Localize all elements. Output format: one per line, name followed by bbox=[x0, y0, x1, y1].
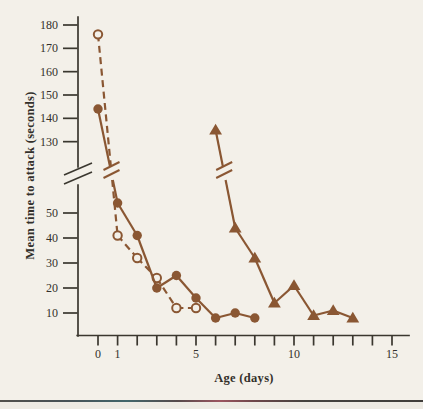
data-point-open-circle bbox=[192, 304, 200, 312]
page-margin-strip bbox=[0, 402, 423, 409]
break-slash bbox=[216, 170, 232, 178]
x-tick-label: 5 bbox=[193, 347, 199, 361]
series-group-filled-triangles bbox=[209, 124, 359, 323]
data-point-filled-circle bbox=[231, 308, 240, 317]
break-slash bbox=[216, 162, 232, 170]
series-group-open-circles bbox=[94, 30, 200, 312]
data-point-filled-triangle bbox=[327, 304, 340, 315]
data-point-filled-triangle bbox=[248, 252, 261, 263]
figure-page: 10203040501301401501601701800151015 Mean… bbox=[0, 0, 423, 409]
data-point-filled-circle bbox=[191, 293, 200, 302]
data-point-filled-triangle bbox=[229, 222, 242, 233]
data-point-open-circle bbox=[172, 304, 180, 312]
data-point-filled-triangle bbox=[209, 124, 222, 135]
data-point-filled-circle bbox=[172, 271, 181, 280]
y-tick-label: 150 bbox=[40, 88, 58, 102]
data-point-filled-circle bbox=[250, 313, 259, 322]
y-tick-label: 140 bbox=[40, 111, 58, 125]
series-group-filled-circles bbox=[93, 104, 259, 322]
y-tick-label: 40 bbox=[46, 231, 58, 245]
y-tick-label: 180 bbox=[40, 18, 58, 32]
break-slash bbox=[104, 170, 120, 178]
y-tick-label: 20 bbox=[46, 281, 58, 295]
x-tick-label: 15 bbox=[386, 347, 398, 361]
y-tick-label: 30 bbox=[46, 256, 58, 270]
y-tick-label: 130 bbox=[40, 135, 58, 149]
data-point-filled-circle bbox=[211, 313, 220, 322]
series-line bbox=[216, 130, 223, 166]
axes bbox=[77, 17, 409, 336]
series-line bbox=[118, 203, 138, 236]
data-point-filled-circle bbox=[93, 104, 102, 113]
x-axis-title: Age (days) bbox=[78, 371, 410, 386]
y-tick-label: 10 bbox=[46, 306, 58, 320]
x-tick-label: 1 bbox=[115, 347, 121, 361]
data-point-open-circle bbox=[133, 254, 141, 262]
y-axis-title: Mean time to attack (seconds) bbox=[23, 16, 40, 336]
series-line bbox=[226, 180, 236, 228]
data-point-filled-circle bbox=[113, 198, 122, 207]
data-point-filled-circle bbox=[133, 231, 142, 240]
x-tick-label: 0 bbox=[95, 347, 101, 361]
y-tick-label: 50 bbox=[46, 206, 58, 220]
attack-latency-line-chart: 10203040501301401501601701800151015 bbox=[0, 0, 423, 409]
data-point-filled-circle bbox=[152, 283, 161, 292]
x-tick-label: 10 bbox=[288, 347, 300, 361]
y-tick-label: 170 bbox=[40, 41, 58, 55]
y-tick-label: 160 bbox=[40, 65, 58, 79]
series-line bbox=[98, 34, 111, 166]
series-line bbox=[255, 258, 275, 303]
line-break-mark bbox=[216, 162, 232, 178]
data-point-open-circle bbox=[94, 30, 102, 38]
y-ticks: 1020304050130140150160170180 bbox=[40, 18, 78, 320]
x-ticks: 0151015 bbox=[95, 336, 398, 361]
data-point-open-circle bbox=[113, 231, 121, 239]
data-point-filled-triangle bbox=[288, 279, 301, 290]
